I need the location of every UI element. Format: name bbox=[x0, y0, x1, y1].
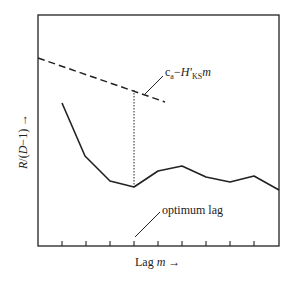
x-axis-label: Lag m → bbox=[135, 255, 180, 269]
y-axis-label: R/(D−1) → bbox=[16, 114, 30, 170]
chart-canvas: ca−H′KSm optimum lag Lag m → R/(D−1) → bbox=[0, 0, 291, 281]
dashed-line-ca-hks bbox=[38, 58, 165, 102]
r-d-curve bbox=[62, 103, 279, 190]
dashed-label-leader bbox=[145, 76, 163, 94]
dashed-line-label: ca−H′KSm bbox=[165, 65, 211, 81]
optimum-lag-label: optimum lag bbox=[162, 203, 223, 217]
x-axis-ticks bbox=[62, 241, 254, 246]
optimum-lag-leader bbox=[135, 212, 160, 237]
